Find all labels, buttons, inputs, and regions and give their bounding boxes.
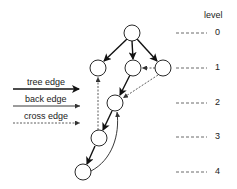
node-e-level-2: [107, 95, 123, 111]
node-f-level-3: [91, 130, 107, 146]
level-label-1: 1: [215, 63, 220, 72]
tree-edge-a-b: [104, 39, 127, 61]
level-header: level: [204, 11, 223, 20]
node-d-level-1: [155, 60, 171, 76]
level-label-3: 3: [215, 132, 220, 141]
node-g-level-4: [75, 164, 91, 180]
legend-tree-edge-label: tree edge: [27, 78, 65, 87]
node-a-level-0: [124, 25, 140, 41]
tree-edge-a-c: [132, 41, 133, 59]
level-guides: [176, 33, 207, 172]
node-b-level-1: [90, 60, 106, 76]
tree-edge-e-f: [103, 111, 112, 130]
level-label-0: 0: [215, 28, 220, 37]
legend-cross-edge-label: cross edge: [24, 112, 68, 121]
level-label-2: 2: [215, 98, 220, 107]
tree-edge-f-g: [87, 146, 95, 164]
nodes: [75, 25, 171, 180]
level-label-4: 4: [215, 167, 220, 176]
node-c-level-1: [125, 60, 141, 76]
tree-edge-c-e: [120, 75, 130, 95]
bfs-diagram: tree edge back edge cross edge level 0 1…: [0, 0, 237, 189]
legend-back-edge-label: back edge: [25, 95, 67, 104]
tree-edge-a-d: [137, 39, 157, 61]
